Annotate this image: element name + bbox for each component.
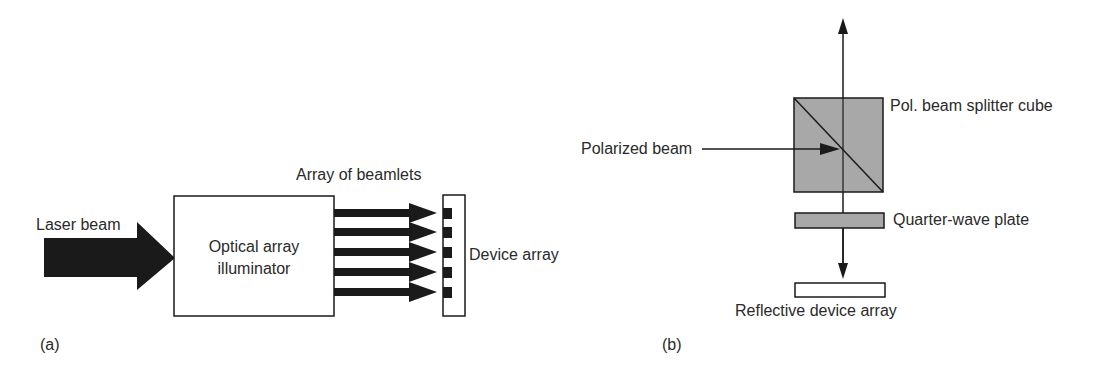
optical-array-illuminator-box xyxy=(174,196,334,316)
panel-b xyxy=(702,18,885,297)
panel-a-caption: (a) xyxy=(40,336,60,354)
quarter-wave-plate xyxy=(795,213,884,228)
beam-splitter-label: Pol. beam splitter cube xyxy=(890,97,1053,115)
illuminator-label-line1: Optical array xyxy=(174,238,334,256)
beamlet-arrow-icon xyxy=(334,242,437,262)
quarter-wave-plate-label: Quarter-wave plate xyxy=(893,211,1029,229)
beamlet-arrow-icon xyxy=(334,262,437,282)
reflective-device-array-label: Reflective device array xyxy=(735,302,897,320)
down-arrow-icon xyxy=(838,263,848,279)
polarized-beam-label: Polarized beam xyxy=(581,140,692,158)
output-arrow-up-icon xyxy=(838,18,848,34)
diagram-canvas xyxy=(0,0,1119,372)
reflective-device-array xyxy=(795,283,885,297)
beamlet-arrows xyxy=(334,203,437,302)
beamlet-arrow-icon xyxy=(334,203,437,223)
illuminator-label-line2: illuminator xyxy=(174,260,334,278)
beamlet-arrow-icon xyxy=(334,222,437,242)
beamlet-arrow-icon xyxy=(334,282,437,302)
array-of-beamlets-label: Array of beamlets xyxy=(296,166,421,184)
device-array-label: Device array xyxy=(469,246,559,264)
panel-b-caption: (b) xyxy=(662,336,682,354)
laser-beam-label: Laser beam xyxy=(36,216,121,234)
